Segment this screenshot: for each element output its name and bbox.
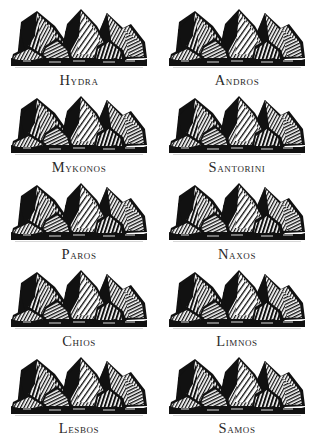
mountain-range-icon: [11, 6, 147, 66]
plate-cell: Naxos: [158, 180, 316, 267]
mountain-range-icon: [11, 180, 147, 240]
plate-caption: Chios: [62, 334, 96, 349]
plate-baseline: [15, 241, 143, 242]
plate-cell: Limnos: [158, 267, 316, 354]
plate-caption: Samos: [218, 421, 255, 436]
plate-baseline: [173, 154, 301, 155]
plate-cell: Andros: [158, 6, 316, 93]
plate-cell: Hydra: [0, 6, 158, 93]
plate-cell: Lesbos: [0, 354, 158, 437]
mountain-range-icon: [169, 93, 305, 153]
plate-caption: Naxos: [218, 247, 256, 262]
plate-baseline: [15, 67, 143, 68]
plate-caption: Santorini: [209, 160, 266, 175]
plate-caption: Mykonos: [52, 160, 107, 175]
plate-cell: Chios: [0, 267, 158, 354]
plate-grid: Hydra Andros Mykonos Santorini Paros Nax…: [0, 6, 316, 437]
plate-baseline: [173, 415, 301, 416]
plate-baseline: [173, 241, 301, 242]
plate-baseline: [15, 415, 143, 416]
plate-caption: Limnos: [216, 334, 257, 349]
plate-caption: Paros: [61, 247, 96, 262]
mountain-range-icon: [169, 267, 305, 327]
plate-caption: Hydra: [60, 73, 99, 88]
plate-baseline: [173, 67, 301, 68]
mountain-range-icon: [169, 354, 305, 414]
plate-cell: Samos: [158, 354, 316, 437]
plate-cell: Santorini: [158, 93, 316, 180]
mountain-range-icon: [169, 180, 305, 240]
mountain-range-icon: [169, 6, 305, 66]
plate-caption: Andros: [215, 73, 260, 88]
plate-baseline: [173, 328, 301, 329]
plate-caption: Lesbos: [59, 421, 99, 436]
plate-cell: Paros: [0, 180, 158, 267]
mountain-range-icon: [11, 93, 147, 153]
plate-baseline: [15, 154, 143, 155]
plate-cell: Mykonos: [0, 93, 158, 180]
mountain-range-icon: [11, 267, 147, 327]
plate-baseline: [15, 328, 143, 329]
mountain-range-icon: [11, 354, 147, 414]
